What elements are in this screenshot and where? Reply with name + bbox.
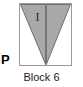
- block-caption: Block 6: [0, 69, 83, 85]
- panel-letter-label: P: [1, 52, 15, 68]
- block-square-frame: [19, 3, 72, 66]
- inverted-triangle-diagram: [20, 4, 71, 65]
- block-figure: P I Block 6: [0, 0, 83, 87]
- region-label-one: I: [34, 10, 41, 24]
- right-half-triangle-shape: [46, 5, 70, 65]
